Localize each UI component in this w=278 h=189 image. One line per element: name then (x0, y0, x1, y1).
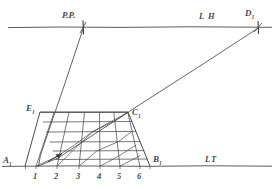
base-number-4: 4 (97, 172, 101, 181)
base-number-2: 2 (54, 172, 58, 181)
label-horizon-line: L H (199, 12, 216, 21)
label-corner-a-sub: 1 (9, 161, 12, 167)
base-number-6: 6 (137, 172, 141, 181)
base-number-1: 1 (33, 172, 37, 181)
base-number-3: 3 (76, 172, 80, 181)
label-corner-b-sub: 1 (159, 160, 162, 166)
direction-arrow (48, 154, 62, 162)
perspective-drawing (0, 0, 278, 189)
converge-line-1 (36, 112, 54, 166)
grid-depth-lines (40, 112, 148, 159)
ground-line (2, 166, 272, 167)
label-corner-e-sub: 1 (32, 109, 35, 115)
diagonal-to-d1-a (57, 112, 128, 166)
label-principal-point: P.P. (62, 11, 75, 20)
diagonal-to-d1-b (79, 131, 132, 166)
diagonal-to-d1-d (120, 156, 140, 167)
converge-line-6 (128, 112, 140, 166)
base-number-5: 5 (117, 172, 121, 181)
diagram-canvas: P.P. L H D1 E1 C1 A1 B1 LT 1 2 3 4 5 6 (0, 0, 278, 189)
ground-line-group (2, 166, 272, 167)
depth-line-4 (46, 131, 136, 132)
converge-line-4 (100, 112, 101, 166)
horizon-line-group (8, 27, 272, 28)
label-distance-point: D1 (245, 9, 254, 20)
d1-construction-ray (38, 29, 258, 167)
converge-line-2 (57, 112, 69, 166)
label-distance-point-sub: 1 (252, 14, 255, 20)
ray-d1-to-base-1 (38, 29, 258, 167)
label-corner-b: B1 (153, 155, 162, 166)
label-ground-line: LT (205, 155, 217, 164)
label-corner-e: E1 (26, 104, 35, 115)
horizon-line (8, 27, 272, 28)
label-corner-c: C1 (132, 108, 141, 119)
depth-line-5 (43, 122, 132, 123)
label-corner-a: A1 (3, 156, 12, 167)
label-corner-c-sub: 1 (138, 113, 141, 119)
